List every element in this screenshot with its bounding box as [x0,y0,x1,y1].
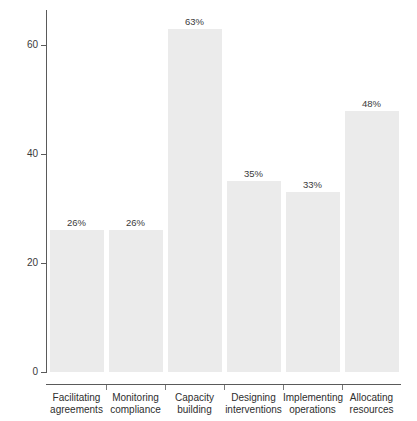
y-axis-tick [41,263,46,264]
plot-area [47,10,401,372]
x-axis-label-line: interventions [224,404,283,416]
bar[interactable] [50,230,104,372]
x-axis-category-label: Implementingoperations [283,392,342,415]
x-axis-separator-tick [283,385,284,390]
x-axis-label-line: Allocating [342,392,401,404]
x-axis-separator-tick [165,385,166,390]
x-axis-category-label: Capacitybuilding [165,392,224,415]
bar[interactable] [109,230,163,372]
bar-value-label: 26% [109,217,163,228]
y-axis-tick-label: 60 [0,40,38,50]
y-axis-tick [41,154,46,155]
x-axis-label-line: Facilitating [47,392,106,404]
bar[interactable] [286,192,340,372]
y-axis-tick-label: 40 [0,149,38,159]
x-axis-category-label: Designinginterventions [224,392,283,415]
x-axis-category-label: Monitoringcompliance [106,392,165,415]
x-axis-separator-tick [224,385,225,390]
x-axis-label-line: Capacity [165,392,224,404]
y-axis-tick [41,372,46,373]
bar[interactable] [227,181,281,372]
bar-value-label: 63% [168,16,222,27]
x-axis-label-line: compliance [106,404,165,416]
x-axis-label-line: Designing [224,392,283,404]
bar-value-label: 33% [286,179,340,190]
x-axis-label-line: Implementing [283,392,342,404]
y-axis-tick-label: 0 [0,367,38,377]
x-axis-label-line: agreements [47,404,106,416]
x-axis-category-label: Facilitatingagreements [47,392,106,415]
bar[interactable] [345,111,399,372]
x-axis-label-line: building [165,404,224,416]
y-axis-title: Percentage of institutions [0,0,20,20]
x-axis-separator-tick [342,385,343,390]
y-axis-tick [41,45,46,46]
bar-value-label: 26% [50,217,104,228]
bar[interactable] [168,29,222,372]
x-axis-category-label: Allocatingresources [342,392,401,415]
bar-value-label: 48% [345,98,399,109]
bar-value-label: 35% [227,168,281,179]
x-axis-label-line: Monitoring [106,392,165,404]
x-axis-label-line: operations [283,404,342,416]
bar-chart: Percentage of institutions 0204060 Facil… [0,0,417,421]
x-axis-separator-tick [106,385,107,390]
y-axis-tick-label: 20 [0,258,38,268]
x-axis-label-line: resources [342,404,401,416]
